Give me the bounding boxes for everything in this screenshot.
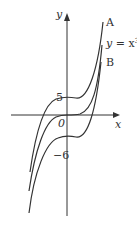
y-intercept-label-5: 5 — [56, 91, 63, 104]
label-exp: 3 — [135, 37, 137, 45]
cubic-graph-diagram: y x 0 5 −6 A y = x3 B — [0, 0, 137, 228]
y-axis-arrow-icon — [64, 13, 70, 21]
curve-y-equals-x-cubed-label: y = x3 — [105, 37, 137, 50]
y-intercept-label-minus-6: −6 — [53, 149, 69, 162]
x-axis-label: x — [115, 118, 122, 131]
curve-b-label: B — [106, 56, 114, 69]
label-eq: = x — [112, 37, 135, 50]
origin-label: 0 — [58, 117, 65, 130]
y-axis-label: y — [55, 8, 63, 21]
curve-a-label: A — [105, 16, 115, 29]
